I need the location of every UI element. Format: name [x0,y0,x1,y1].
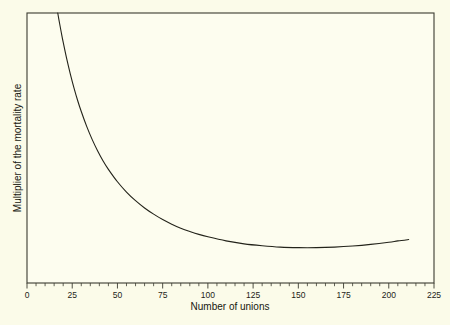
y-axis-title: Multiplier of the mortality rate [12,83,23,212]
x-tick-label: 225 [427,290,441,300]
x-tick-label: 50 [113,290,123,300]
chart-figure: 0255075100125150175200225 Number of unio… [0,0,450,325]
x-tick-label: 0 [25,290,30,300]
x-tick-label: 75 [158,290,168,300]
x-tick-label: 150 [291,290,305,300]
x-tick-label: 125 [246,290,260,300]
x-axis-title: Number of unions [191,301,270,312]
x-tick-label: 200 [382,290,396,300]
x-tick-label: 175 [336,290,350,300]
x-tick-label: 100 [201,290,215,300]
x-tick-label: 25 [67,290,77,300]
plot-area-background [27,13,434,283]
mortality-multiplier-line-chart: 0255075100125150175200225 Number of unio… [0,0,450,325]
